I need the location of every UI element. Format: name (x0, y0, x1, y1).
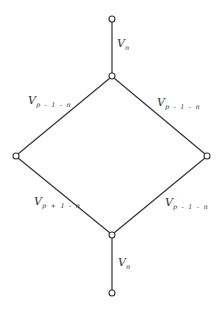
node-upper (109, 73, 115, 79)
label-upper-left-edge: Vp - 1 - n (28, 95, 72, 109)
node-right (204, 153, 210, 159)
label-top-edge: Vn (117, 38, 130, 52)
node-bottom (109, 290, 115, 296)
label-sub: p - 1 - n (36, 101, 72, 109)
label-base: V (118, 256, 126, 269)
edge-right-lower (114, 158, 205, 233)
node-top (109, 16, 115, 22)
node-lower (109, 232, 115, 238)
edge-upper-left (18, 78, 110, 154)
node-left (13, 153, 19, 159)
label-base: V (34, 195, 42, 208)
edge-upper-right (114, 78, 205, 154)
label-base: V (117, 37, 125, 50)
label-sub: p + 1 - n (42, 202, 81, 210)
label-sub: p - 1 - n (173, 203, 209, 211)
label-sub: p - 1 - n (165, 103, 201, 111)
label-sub: n (125, 44, 130, 52)
label-upper-right-edge: Vp - 1 - n (157, 97, 201, 111)
label-base: V (165, 196, 173, 209)
label-base: V (157, 96, 165, 109)
label-lower-left-edge: Vp + 1 - n (34, 196, 81, 210)
label-base: V (28, 94, 36, 107)
lattice-diagram (0, 0, 221, 311)
label-sub: n (126, 263, 131, 271)
label-bottom-edge: Vn (118, 257, 131, 271)
label-lower-right-edge: Vp - 1 - n (165, 197, 209, 211)
